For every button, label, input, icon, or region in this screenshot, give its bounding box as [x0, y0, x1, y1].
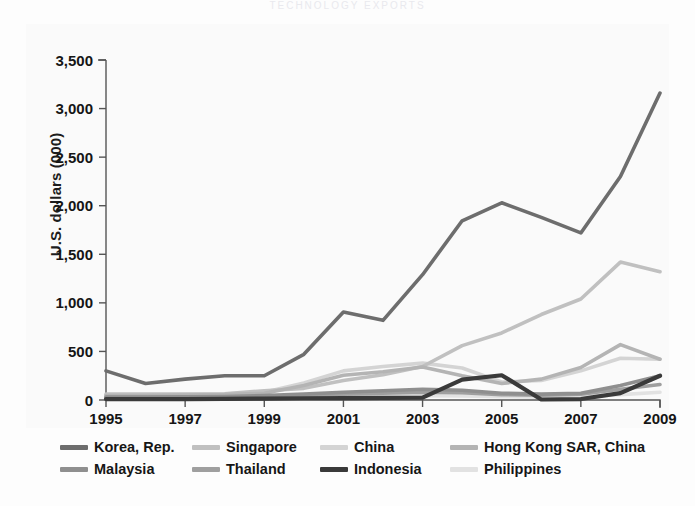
legend-swatch-indonesia	[320, 467, 348, 472]
x-tick-label: 2001	[327, 410, 360, 427]
y-tick-label: 1,500	[55, 246, 93, 263]
x-tick-label: 2003	[406, 410, 439, 427]
x-tick-label: 1997	[168, 410, 201, 427]
legend-item-korea-rep[interactable]: Korea, Rep.	[60, 440, 192, 455]
x-tick-label: 1999	[248, 410, 281, 427]
x-tick-label: 1995	[89, 410, 122, 427]
legend-item-hong-kong-sar-china[interactable]: Hong Kong SAR, China	[450, 440, 645, 455]
legend-label-indonesia: Indonesia	[354, 462, 422, 477]
legend-item-singapore[interactable]: Singapore	[192, 440, 320, 455]
figure-container: TECHNOLOGY EXPORTS U.S. dollars (000) 05…	[0, 0, 695, 506]
line-chart: 05001,0001,5002,0002,5003,0003,500199519…	[0, 0, 695, 506]
legend-row-1: Korea, Rep. Singapore China Hong Kong SA…	[60, 436, 680, 458]
y-tick-label: 2,000	[55, 197, 93, 214]
legend-swatch-hong-kong-sar-china	[450, 445, 478, 450]
legend-swatch-singapore	[192, 445, 220, 450]
legend-swatch-malaysia	[60, 467, 88, 472]
legend-item-indonesia[interactable]: Indonesia	[320, 462, 450, 477]
legend-label-philippines: Philippines	[484, 462, 561, 477]
y-tick-label: 3,500	[55, 52, 93, 69]
y-tick-label: 2,500	[55, 149, 93, 166]
legend-label-malaysia: Malaysia	[94, 462, 154, 477]
y-tick-label: 1,000	[55, 294, 93, 311]
x-tick-label: 2007	[564, 410, 597, 427]
x-tick-label: 2005	[485, 410, 518, 427]
y-tick-label: 0	[85, 392, 93, 409]
chart-legend: Korea, Rep. Singapore China Hong Kong SA…	[60, 436, 680, 480]
series-line-korea-rep	[106, 93, 660, 383]
legend-item-thailand[interactable]: Thailand	[192, 462, 320, 477]
legend-label-singapore: Singapore	[226, 440, 297, 455]
legend-label-china: China	[354, 440, 394, 455]
legend-swatch-china	[320, 445, 348, 450]
legend-item-philippines[interactable]: Philippines	[450, 462, 561, 477]
series-line-singapore	[106, 262, 660, 394]
y-tick-label: 3,000	[55, 100, 93, 117]
legend-item-malaysia[interactable]: Malaysia	[60, 462, 192, 477]
legend-label-hong-kong-sar-china: Hong Kong SAR, China	[484, 440, 645, 455]
legend-label-korea-rep: Korea, Rep.	[94, 440, 175, 455]
legend-swatch-thailand	[192, 467, 220, 472]
legend-row-2: Malaysia Thailand Indonesia Philippines	[60, 458, 680, 480]
x-tick-label: 2009	[643, 410, 676, 427]
legend-label-thailand: Thailand	[226, 462, 286, 477]
series-line-hong-kong-sar-china	[106, 345, 660, 396]
legend-swatch-philippines	[450, 467, 478, 472]
legend-item-china[interactable]: China	[320, 440, 450, 455]
y-tick-label: 500	[68, 343, 93, 360]
legend-swatch-korea-rep	[60, 445, 88, 450]
plot-area: 05001,0001,5002,0002,5003,0003,500199519…	[0, 0, 695, 506]
